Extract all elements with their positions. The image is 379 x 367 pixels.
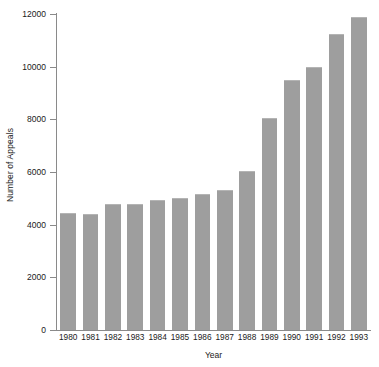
y-axis-tick-label: 10000: [0, 62, 46, 71]
bar-series: [57, 14, 370, 330]
x-axis-tick-label: 1987: [214, 333, 236, 342]
x-axis-tick-label: 1981: [79, 333, 101, 342]
bar: [60, 213, 76, 330]
bar-chart: Number of Appeals 0200040006000800010000…: [0, 0, 379, 367]
x-axis-tick-label: 1993: [348, 333, 370, 342]
bar-slot: [169, 14, 191, 330]
x-axis-tick-label: 1985: [169, 333, 191, 342]
y-axis-tick: [50, 172, 57, 173]
bar-slot: [102, 14, 124, 330]
x-axis-tick-label: 1982: [102, 333, 124, 342]
bar-slot: [325, 14, 347, 330]
x-axis-tick-label: 1983: [124, 333, 146, 342]
y-axis-tick: [50, 330, 57, 331]
y-axis-tick-label: 8000: [0, 115, 46, 124]
bar-slot: [348, 14, 370, 330]
bar-slot: [124, 14, 146, 330]
x-axis-tick-label: 1980: [57, 333, 79, 342]
y-axis-title-text: Number of Appeals: [5, 128, 15, 202]
bar: [351, 17, 367, 330]
y-axis-tick-label: 6000: [0, 168, 46, 177]
x-axis-line: [56, 330, 371, 331]
bar-slot: [146, 14, 168, 330]
y-axis-tick: [50, 67, 57, 68]
y-axis-tick: [50, 277, 57, 278]
bar: [239, 171, 255, 330]
x-axis-tick-label: 1991: [303, 333, 325, 342]
bar: [262, 118, 278, 331]
bar: [217, 190, 233, 330]
bar: [195, 194, 211, 330]
y-axis-tick-label: 0: [0, 326, 46, 335]
bar: [83, 214, 99, 330]
y-axis-tick: [50, 119, 57, 120]
bar-slot: [258, 14, 280, 330]
x-axis-tick-labels: 1980198119821983198419851986198719881989…: [57, 333, 370, 342]
bar: [306, 67, 322, 330]
x-axis-tick-label: 1984: [146, 333, 168, 342]
y-axis-tick: [50, 225, 57, 226]
bar: [284, 80, 300, 330]
bar-slot: [303, 14, 325, 330]
bar: [150, 200, 166, 330]
bar: [127, 204, 143, 330]
bar-slot: [236, 14, 258, 330]
y-axis-tick: [50, 14, 57, 15]
bar-slot: [79, 14, 101, 330]
x-axis-tick-label: 1989: [258, 333, 280, 342]
y-axis-tick-label: 4000: [0, 220, 46, 229]
x-axis-tick-label: 1988: [236, 333, 258, 342]
bar-slot: [191, 14, 213, 330]
x-axis-title: Year: [57, 350, 370, 360]
bar: [172, 198, 188, 330]
bar-slot: [214, 14, 236, 330]
y-axis-tick-label: 12000: [0, 10, 46, 19]
bar: [329, 34, 345, 330]
x-axis-tick-label: 1992: [325, 333, 347, 342]
bar-slot: [281, 14, 303, 330]
x-axis-tick-label: 1986: [191, 333, 213, 342]
y-axis-tick-label: 2000: [0, 273, 46, 282]
bar: [105, 204, 121, 330]
x-axis-tick-label: 1990: [281, 333, 303, 342]
bar-slot: [57, 14, 79, 330]
